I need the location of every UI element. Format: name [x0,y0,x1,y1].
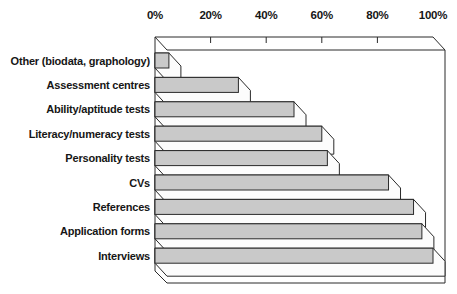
recruitment-methods-bar-chart: 0%20%40%60%80%100%Other (biodata, grapho… [0,0,457,294]
category-label-assessment-centres: Assessment centres [47,79,150,91]
x-tick-label-20: 20% [199,9,221,21]
category-label-personality-tests: Personality tests [65,152,150,164]
category-label-interviews: Interviews [98,250,150,262]
bar-cvs [155,175,401,203]
category-label-references: References [93,201,150,213]
bar-ability-aptitude-tests [155,102,306,130]
category-label-literacy-numeracy-tests: Literacy/numeracy tests [29,128,150,140]
bar-face [155,248,433,263]
category-label-application-forms: Application forms [60,225,150,237]
category-labels: Other (biodata, graphology)Assessment ce… [11,55,151,262]
bar-face [155,151,327,166]
category-label-ability-aptitude-tests: Ability/aptitude tests [46,103,150,115]
x-tick-label-100: 100% [419,9,448,21]
x-tick-label-80: 80% [366,9,388,21]
x-tick-label-0: 0% [147,9,163,21]
bar-face [155,224,422,239]
bar-face [155,126,322,141]
bar-references [155,199,426,227]
category-label-cvs: CVs [129,177,150,189]
chart-svg: 0%20%40%60%80%100%Other (biodata, grapho… [0,0,457,294]
bar-interviews [155,248,445,276]
x-tick-label-40: 40% [255,9,277,21]
bar-face [155,199,414,214]
bar-application-forms [155,224,434,252]
bar-assessment-centres [155,77,250,105]
x-tick-label-60: 60% [311,9,333,21]
bar-literacy-numeracy-tests [155,126,334,154]
bar-face [155,102,294,117]
category-label-other-biodata-graphology: Other (biodata, graphology) [11,55,151,67]
bar-face [155,53,169,68]
bar-face [155,175,389,190]
bar-personality-tests [155,151,339,179]
bar-face [155,77,238,92]
